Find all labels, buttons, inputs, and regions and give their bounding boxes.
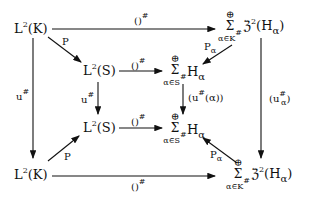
node-l2-k-bottom: L2(K) — [14, 168, 48, 181]
term-arg: (H — [256, 18, 272, 33]
label-arrow-top: ()# — [134, 16, 149, 26]
node-l2-k-top: L2(K) — [14, 22, 48, 35]
term-sub: α — [198, 71, 205, 82]
node-l2-s-bottom: L2(S) — [83, 121, 116, 134]
label-diag-bottom-left: P — [64, 152, 71, 162]
term: H — [187, 122, 198, 137]
label-diag-bottom-right: Pα — [210, 150, 222, 163]
label-left-vertical: u# — [16, 92, 29, 102]
label-diag-top-left: P — [62, 37, 69, 47]
label-right-vertical: (u#α) — [269, 94, 290, 107]
label-arrow-mid-top: ()# — [131, 61, 146, 71]
sigma-symbol: Σ — [218, 20, 242, 32]
sum-index: α∈S — [163, 78, 180, 87]
node-arg: (S) — [97, 120, 116, 135]
node-base: L — [14, 21, 23, 36]
term: H — [187, 64, 198, 79]
node-base: L — [14, 167, 23, 182]
sum-index: α∈K — [218, 34, 235, 43]
node-arg: (K) — [28, 167, 48, 182]
node-base: L — [83, 63, 92, 78]
sum-index: α∈S — [163, 136, 180, 145]
sigma-symbol: Σ — [163, 64, 187, 76]
term: ℨ — [243, 18, 251, 33]
label-arrow-mid-bottom: ()# — [131, 117, 146, 127]
sigma-symbol: Σ — [226, 168, 250, 180]
term-arg: (H — [264, 166, 280, 181]
sigma-symbol: Σ — [163, 122, 187, 134]
node-arg: (S) — [97, 63, 116, 78]
term-sub: α — [198, 129, 205, 140]
node-arg: (K) — [28, 21, 48, 36]
term: ℨ — [251, 166, 259, 181]
term-close: ) — [287, 166, 292, 181]
label-inner-right-vertical: (u#(α)) — [188, 93, 224, 103]
term-close: ) — [279, 18, 284, 33]
node-l2-s-top: L2(S) — [83, 64, 116, 77]
label-inner-left-vertical: u# — [81, 95, 94, 105]
node-base: L — [83, 120, 92, 135]
label-arrow-bottom: ()# — [131, 182, 146, 192]
label-diag-top-right: Pα — [204, 42, 216, 55]
sum-index: α∈K — [226, 182, 243, 191]
